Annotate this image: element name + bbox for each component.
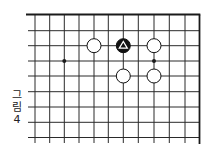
board-grid xyxy=(26,15,200,145)
star-point-icon xyxy=(152,59,156,63)
white-stone-icon xyxy=(147,39,161,53)
star-point-icon xyxy=(62,59,66,63)
white-stone-icon xyxy=(116,69,130,83)
white-stone-icon xyxy=(87,39,101,53)
go-board-diagram xyxy=(0,0,210,156)
caption-char-3: 4 xyxy=(10,114,24,126)
figure-caption: 그 림 4 xyxy=(10,90,24,126)
white-stone-icon xyxy=(147,69,161,83)
